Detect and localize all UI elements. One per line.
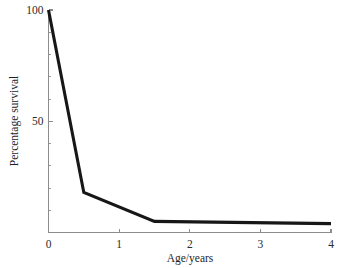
x-tick-label-4: 4 <box>328 238 334 250</box>
x-axis-tick-labels: 01234 <box>46 238 335 250</box>
x-axis-title: Age/years <box>167 252 214 265</box>
data-line-survivorship <box>49 10 332 224</box>
chart-canvas: 50100 01234 Age/years Percentage surviva… <box>0 0 341 268</box>
y-axis-tick-labels: 50100 <box>26 4 44 127</box>
x-tick-label-0: 0 <box>46 238 52 250</box>
x-axis-major-ticks <box>49 229 332 233</box>
y-axis-title: Percentage survival <box>8 76 21 166</box>
y-tick-label-100: 100 <box>26 4 44 16</box>
x-tick-label-3: 3 <box>258 238 264 250</box>
x-tick-label-1: 1 <box>116 238 122 250</box>
data-series-group <box>49 10 332 224</box>
survivorship-curve-figure: 50100 01234 Age/years Percentage surviva… <box>0 0 341 268</box>
x-tick-label-2: 2 <box>187 238 193 250</box>
y-tick-label-50: 50 <box>32 115 44 127</box>
